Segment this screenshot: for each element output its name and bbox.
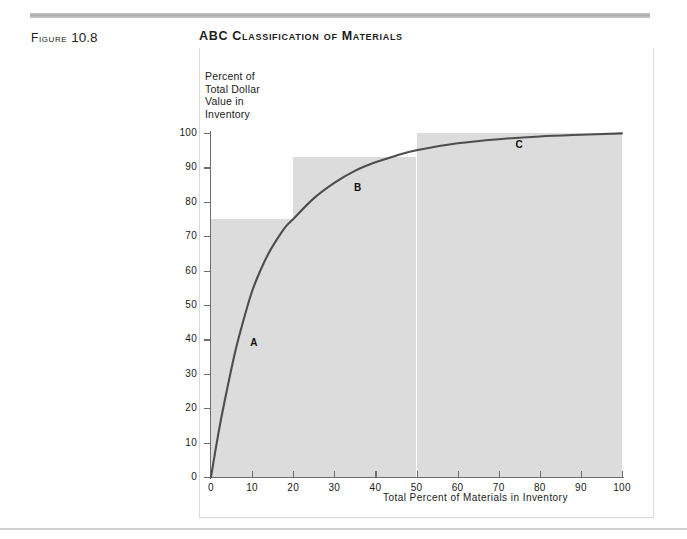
cumulative-value-curve [211, 133, 622, 477]
abc-curve [0, 0, 687, 539]
region-label-a: A [250, 337, 258, 348]
region-label-c: C [515, 139, 523, 150]
region-label-b: B [354, 182, 362, 193]
figure-page: Figure 10.8 ABC Classification of Materi… [0, 0, 687, 539]
bottom-rule [0, 528, 687, 530]
